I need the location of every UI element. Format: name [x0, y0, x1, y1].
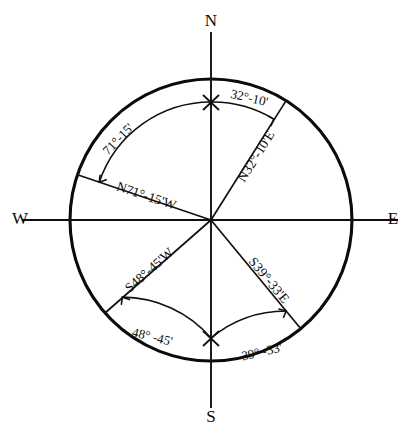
- bearing-label-sw: S48°-45'W: [122, 244, 177, 295]
- angle-label-se: 39° -33': [240, 340, 283, 364]
- bearing-label-nw: N71°-15'W: [115, 179, 179, 213]
- angle-label-sw: 48° -45': [131, 324, 175, 349]
- cardinal-label-south: S: [206, 407, 215, 426]
- bearing-label-se: S39°-33'E: [246, 254, 293, 306]
- compass-diagram: N E S W N32°-10'E N71°-15'W S48°-45'W S3…: [0, 0, 416, 437]
- arc-39-33: [211, 311, 286, 338]
- cardinal-label-west: W: [12, 209, 29, 228]
- compass-figure: N E S W N32°-10'E N71°-15'W S48°-45'W S3…: [0, 0, 416, 437]
- arrowhead-32-10: [268, 116, 274, 126]
- bearing-label-ne: N32°-10'E: [234, 128, 277, 185]
- cardinal-label-north: N: [205, 11, 217, 30]
- arrowhead-48-45: [121, 297, 129, 304]
- arrowhead-71-15: [99, 175, 106, 182]
- cardinal-label-east: E: [388, 209, 398, 228]
